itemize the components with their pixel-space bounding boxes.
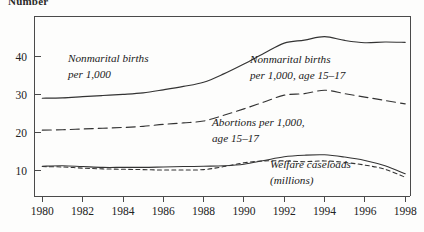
x-axis-ticks: [42, 196, 405, 202]
annotation-nonmarital-births: Nonmarital births per 1,000: [67, 52, 149, 80]
annotation-nonmarital-births-teen-line2: per 1,000, age 15–17: [249, 69, 346, 81]
annotation-nonmarital-births-teen-line1: Nonmarital births: [249, 53, 331, 65]
x-tick-label-1992: 1992: [273, 205, 296, 217]
chart-figure: Number 10 20 30 40: [0, 0, 424, 232]
annotation-abortions: Abortions per 1,000, age 15–17: [211, 116, 305, 144]
annotation-nonmarital-births-line2: per 1,000: [67, 68, 111, 80]
annotation-welfare: Welfare caseloads (millions): [270, 158, 352, 187]
x-tick-label-1986: 1986: [152, 205, 175, 217]
y-tick-label-30: 30: [16, 89, 28, 101]
annotation-nonmarital-births-line1: Nonmarital births: [67, 52, 149, 64]
y-axis-tick-labels: 10 20 30 40: [16, 51, 28, 177]
x-axis-tick-labels: 1980 1982 1984 1986 1988 1990 1992 1994 …: [31, 205, 417, 217]
x-tick-label-1994: 1994: [313, 205, 336, 217]
y-tick-label-40: 40: [16, 51, 28, 63]
y-tick-label-10: 10: [16, 165, 28, 177]
x-tick-label-1998: 1998: [394, 205, 417, 217]
x-tick-label-1984: 1984: [112, 205, 135, 217]
x-tick-label-1990: 1990: [232, 205, 255, 217]
annotation-welfare-line2: (millions): [270, 174, 314, 187]
y-tick-label-20: 20: [16, 127, 28, 139]
plot-frame: [34, 16, 410, 196]
x-tick-label-1988: 1988: [192, 205, 215, 217]
x-tick-label-1980: 1980: [31, 205, 54, 217]
x-tick-label-1996: 1996: [353, 205, 376, 217]
line-chart-plot: 10 20 30 40 1980 1982 1984 1986 1988 199…: [0, 0, 424, 232]
annotation-abortions-line2: age 15–17: [212, 132, 259, 144]
annotation-nonmarital-births-teen: Nonmarital births per 1,000, age 15–17: [249, 53, 346, 81]
y-axis-ticks: [34, 56, 41, 170]
annotation-abortions-line1: Abortions per 1,000,: [211, 116, 305, 128]
x-tick-label-1982: 1982: [71, 205, 94, 217]
annotation-welfare-line1: Welfare caseloads: [270, 158, 352, 170]
